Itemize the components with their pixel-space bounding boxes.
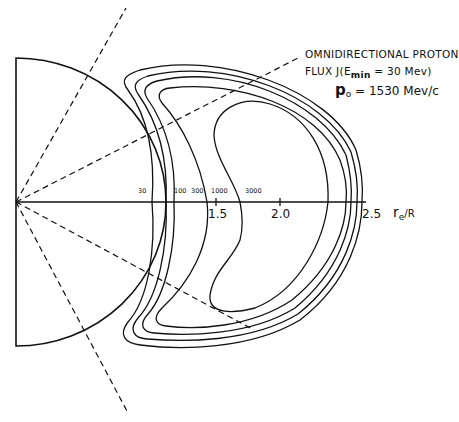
contour-100 [133,71,357,340]
tick-label-2-5: 2.5 [362,207,381,221]
contour-3000 [210,101,328,311]
contour-label-3000: 3000 [245,187,262,195]
contour-1000 [156,87,346,328]
contour-30 [123,65,362,348]
contour-label-1000: 1000 [211,187,228,195]
tick-label-2-0: 2.0 [271,207,290,221]
contour-label-30: 30 [138,187,146,195]
title-line-2: FLUX J(Emin = 30 Mev) [305,65,432,80]
contour-label-300: 300 [191,187,203,195]
contour-label-100: 100 [174,187,186,195]
tick-label-1-5: 1.5 [208,207,227,221]
title-line-3: po = 1530 Mev/c [335,81,439,99]
axis-title: re/R [393,204,415,222]
dashed-rays [16,8,300,413]
title-line-1: OMNIDIRECTIONAL PROTON [305,48,459,60]
